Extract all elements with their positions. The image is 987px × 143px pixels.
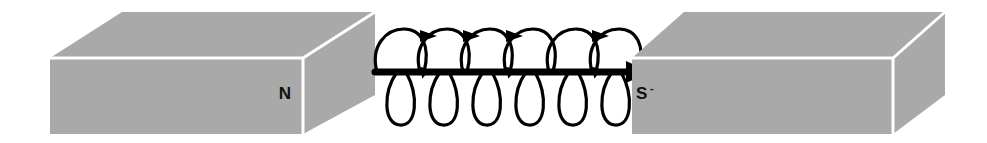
right-magnet-pole-mark: -	[650, 82, 654, 94]
magnet-field-figure: N	[0, 0, 987, 143]
helix-field-line	[375, 29, 641, 125]
left-magnet-pole-label: N	[279, 84, 291, 103]
helix-crest-arrowheads	[420, 30, 609, 42]
right-magnet: S -	[632, 12, 945, 134]
helix-back-loops	[387, 72, 630, 125]
right-magnet-front-face	[632, 58, 893, 134]
right-magnet-pole-label: S	[636, 84, 647, 103]
left-magnet-front-face	[50, 58, 303, 134]
figure-canvas: N	[0, 0, 987, 143]
right-magnet-top-face	[632, 12, 945, 58]
left-magnet: N	[50, 12, 375, 134]
